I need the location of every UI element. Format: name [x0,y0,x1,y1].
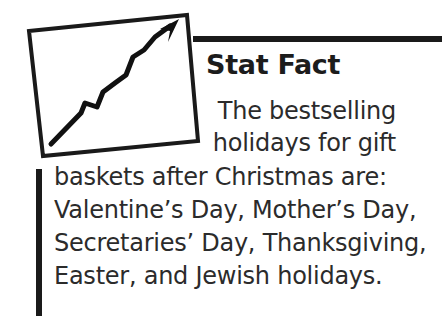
body-text-line: The bestselling [211,98,396,124]
stat-fact-callout: Stat Fact The bestselling holidays for g… [0,0,442,324]
page-title: Stat Fact [206,50,340,80]
body-text-line: holidays for gift [211,130,396,156]
body-text-line: Easter, and Jewish holidays. [54,263,382,289]
body-text-line: Valentine’s Day, Mother’s Day, [54,197,416,223]
body-text-line: Secretaries’ Day, Thanksgiving, [54,230,426,256]
rising-chart-arrow-icon [27,13,199,156]
left-vertical-rule [36,169,42,316]
top-horizontal-rule [193,36,442,42]
body-text-line: baskets after Christmas are: [54,164,387,190]
